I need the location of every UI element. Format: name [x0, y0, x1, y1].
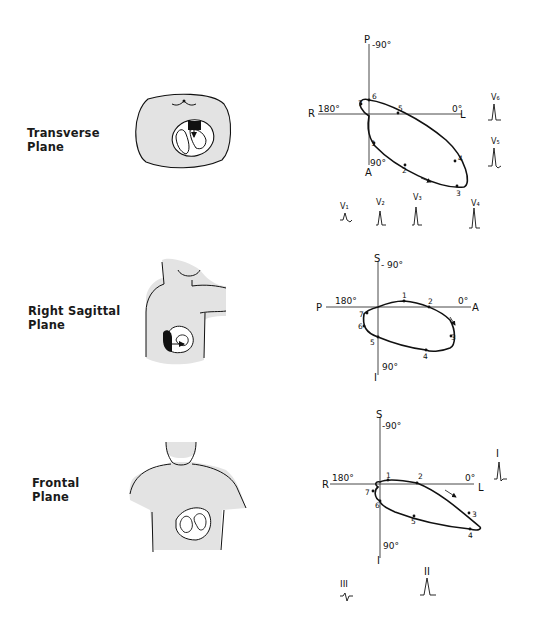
axis-label-top: S: [376, 409, 382, 420]
svg-text:V₆: V₆: [491, 93, 500, 102]
axis-label-left: R: [308, 108, 315, 119]
svg-text:1: 1: [386, 471, 391, 480]
sagittal-torso-illustration: [146, 259, 226, 365]
axis-label-bottom: A: [365, 167, 372, 178]
svg-text:2: 2: [428, 297, 433, 306]
lead-label-II: II: [424, 566, 430, 577]
svg-text:1: 1: [402, 291, 407, 300]
svg-text:6: 6: [372, 92, 377, 101]
frontal-loop-chart: S -90° R 180° 0° L I 90° 123 4567: [322, 409, 484, 566]
svg-text:3: 3: [456, 189, 461, 198]
svg-text:6: 6: [375, 501, 380, 510]
svg-text:5: 5: [411, 517, 416, 526]
svg-text:3: 3: [472, 510, 477, 519]
svg-text:2: 2: [418, 472, 423, 481]
svg-text:7: 7: [365, 488, 370, 497]
svg-text:V₃: V₃: [413, 193, 422, 202]
svg-text:2: 2: [402, 166, 407, 175]
axis-angle-left: 180°: [335, 296, 357, 306]
svg-text:5: 5: [398, 104, 403, 113]
axis-label-top: S: [374, 253, 380, 264]
svg-text:7: 7: [359, 310, 364, 319]
sagittal-loop-chart: S - 90° P 180° 0° A I 90° 123 4567: [316, 253, 479, 383]
axis-label-left: P: [316, 302, 322, 313]
axis-angle-bottom: 90°: [382, 362, 398, 372]
axis-angle-right: 0°: [458, 296, 468, 306]
axis-label-bottom: I: [377, 555, 380, 566]
axis-label-bottom: I: [374, 372, 377, 383]
axis-angle-left: 180°: [332, 473, 354, 483]
svg-text:V₄: V₄: [471, 199, 480, 208]
axis-angle-top: -90°: [372, 40, 391, 50]
axis-label-right: A: [472, 302, 479, 313]
axis-angle-top: -90°: [382, 421, 401, 431]
axis-angle-right: 0°: [465, 473, 475, 483]
limb-leads: I III II: [340, 448, 507, 601]
svg-text:4: 4: [423, 352, 428, 361]
svg-text:V₅: V₅: [491, 137, 500, 146]
vectorcardiogram-figure: P -90° R 180° 0° L A 90° 12 34 567 V₆ V₅…: [0, 0, 534, 626]
svg-text:V₂: V₂: [376, 198, 385, 207]
svg-text:3: 3: [451, 333, 456, 342]
axis-angle-bottom: 90°: [370, 158, 386, 168]
svg-text:5: 5: [370, 338, 375, 347]
svg-text:4: 4: [468, 531, 473, 540]
svg-text:V₁: V₁: [340, 202, 349, 211]
svg-text:4: 4: [458, 154, 463, 163]
lead-label-I: I: [496, 448, 499, 459]
frontal-torso-illustration: [130, 442, 247, 552]
axis-angle-top: - 90°: [381, 260, 403, 270]
axis-angle-bottom: 90°: [383, 541, 399, 551]
axis-angle-left: 180°: [318, 104, 340, 114]
transverse-loop-chart: P -90° R 180° 0° L A 90° 12 34 567: [308, 34, 467, 198]
axis-label-top: P: [364, 34, 370, 45]
transverse-torso-illustration: [136, 94, 231, 168]
svg-text:6: 6: [358, 322, 363, 331]
axis-label-left: R: [322, 479, 329, 490]
axis-label-right: L: [460, 109, 466, 120]
lead-label-III: III: [340, 579, 348, 589]
axis-label-right: L: [478, 482, 484, 493]
